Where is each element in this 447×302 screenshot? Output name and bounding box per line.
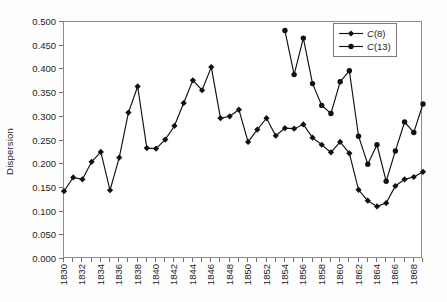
x-axis-tick-label: 1840	[150, 264, 161, 285]
data-point-circle	[319, 103, 324, 108]
data-point-circle	[347, 68, 352, 73]
x-axis-tick-label: 1852	[261, 264, 272, 285]
data-point-diamond	[208, 64, 214, 70]
data-point-circle	[402, 119, 407, 124]
x-axis-tick-label: 1834	[95, 264, 106, 285]
series-C8	[61, 64, 426, 210]
y-axis-tick-label: 0.250	[14, 134, 56, 145]
x-axis-tick-label: 1862	[353, 264, 364, 285]
y-axis-tick-label: 0.000	[14, 253, 56, 264]
y-axis-tick-label: 0.100	[14, 205, 56, 216]
x-axis-tick-label: 1864	[371, 264, 382, 285]
data-point-circle	[365, 162, 370, 167]
legend: C(8)C(13)	[333, 23, 397, 57]
data-point-circle	[310, 81, 315, 86]
data-point-circle	[348, 44, 353, 49]
x-axis-tick-label: 1850	[242, 264, 253, 285]
data-point-diamond	[107, 187, 113, 193]
legend-label: C(13)	[364, 41, 391, 52]
x-axis-tick-label: 1866	[389, 264, 400, 285]
x-axis-tick-label: 1846	[205, 264, 216, 285]
data-point-diamond	[70, 174, 76, 180]
x-axis-tick-label: 1858	[316, 264, 327, 285]
data-point-circle	[383, 179, 388, 184]
data-point-diamond	[291, 126, 297, 132]
y-axis-tick-label: 0.150	[14, 181, 56, 192]
legend-item: C(13)	[338, 40, 391, 53]
data-point-diamond	[420, 169, 426, 175]
data-point-diamond	[135, 83, 141, 89]
data-point-diamond	[61, 188, 67, 194]
legend-item: C(8)	[338, 27, 391, 40]
x-axis-tick-label: 1856	[297, 264, 308, 285]
data-point-circle	[282, 28, 287, 33]
series-line	[64, 67, 423, 206]
legend-marker-diamond	[338, 28, 364, 39]
x-axis-tick-label: 1830	[58, 264, 69, 285]
y-axis-tick-label: 0.300	[14, 110, 56, 121]
y-axis-tick-label: 0.500	[14, 16, 56, 27]
legend-label: C(8)	[364, 28, 386, 39]
x-axis-tick-label: 1860	[334, 264, 345, 285]
data-point-circle	[356, 134, 361, 139]
legend-marker-circle	[338, 41, 364, 52]
data-point-diamond	[116, 154, 122, 160]
data-point-diamond	[348, 30, 354, 36]
data-point-circle	[301, 35, 306, 40]
data-point-circle	[420, 101, 425, 106]
data-point-diamond	[144, 145, 150, 151]
data-point-diamond	[125, 109, 131, 115]
data-point-diamond	[411, 174, 417, 180]
chart-figure: Dispersion 0.0000.0500.1000.1500.2000.25…	[0, 0, 447, 302]
data-point-diamond	[383, 200, 389, 206]
x-axis-tick-label: 1832	[76, 264, 87, 285]
data-point-diamond	[217, 115, 223, 121]
series-canvas	[64, 22, 423, 259]
x-axis-tick-label: 1848	[224, 264, 235, 285]
data-point-circle	[411, 130, 416, 135]
y-axis-title-text: Dispersion	[4, 128, 15, 175]
data-point-diamond	[374, 203, 380, 209]
x-axis-tick-label: 1868	[408, 264, 419, 285]
y-axis-tick-label: 0.200	[14, 158, 56, 169]
y-axis-tick-label: 0.350	[14, 87, 56, 98]
data-point-diamond	[171, 123, 177, 129]
data-point-circle	[393, 148, 398, 153]
y-axis-tick-label: 0.050	[14, 229, 56, 240]
data-point-circle	[374, 142, 379, 147]
data-point-diamond	[79, 176, 85, 182]
data-point-circle	[337, 79, 342, 84]
data-point-diamond	[181, 100, 187, 106]
y-axis-tick-label: 0.400	[14, 63, 56, 74]
x-axis-tick-label: 1838	[132, 264, 143, 285]
x-axis-tick-label: 1844	[187, 264, 198, 285]
x-axis-tick-label: 1836	[113, 264, 124, 285]
x-axis-tick-label: 1842	[168, 264, 179, 285]
x-axis-tick-label: 1854	[279, 264, 290, 285]
data-point-circle	[328, 111, 333, 116]
y-axis-tick-label: 0.450	[14, 39, 56, 50]
data-point-circle	[291, 72, 296, 77]
